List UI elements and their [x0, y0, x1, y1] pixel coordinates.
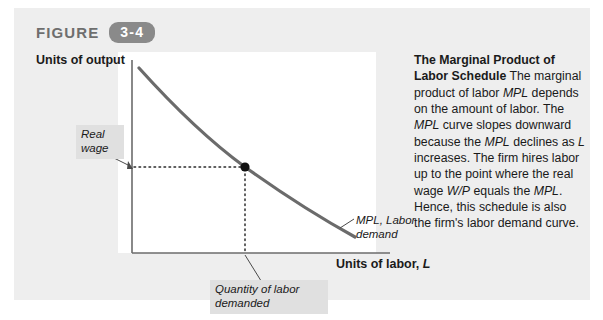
caption-var-6: MPL	[534, 184, 559, 198]
caption-var-2: MPL	[414, 118, 439, 132]
curve-label-leader-line	[340, 219, 354, 228]
caption-body-4: declines as	[510, 135, 578, 149]
caption-var-1: MPL	[503, 86, 528, 100]
real-wage-line-1: Real	[81, 128, 105, 140]
caption-var-4: L	[578, 135, 585, 149]
mpl-curve	[139, 68, 355, 237]
real-wage-callout: Real wage	[76, 125, 124, 159]
real-wage-line-2: wage	[81, 142, 109, 154]
quantity-demanded-callout: Quantity of labor demanded	[210, 280, 328, 314]
quantity-line-2: demanded	[215, 297, 269, 309]
curve-label-line-1: MPL, Labor	[356, 214, 415, 226]
equilibrium-point	[240, 162, 249, 171]
curve-label-line-2: demand	[356, 228, 398, 240]
mpl-curve-label: MPL, Labor demand	[356, 214, 415, 242]
figure-caption: The Marginal Product of Labor Schedule T…	[414, 52, 586, 232]
caption-var-5: W/P	[447, 184, 470, 198]
caption-var-3: MPL	[484, 135, 509, 149]
quantity-line-1: Quantity of labor	[215, 283, 299, 295]
caption-body-6: equals the	[470, 184, 534, 198]
figure-panel: FIGURE 3-4 Units of output Units of labo…	[14, 8, 590, 300]
